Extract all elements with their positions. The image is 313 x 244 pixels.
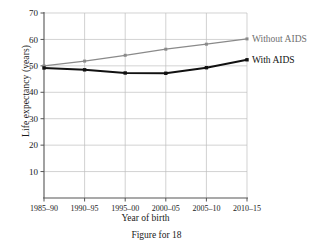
gridlines-vertical [85, 13, 247, 198]
series-marker [124, 54, 127, 57]
axis-lines [43, 12, 248, 198]
x-tick-label: 2010–15 [233, 204, 261, 213]
series-marker [164, 72, 167, 75]
y-axis-title: Life expectancy (years) [21, 21, 31, 161]
series-line [44, 39, 247, 66]
series-label-with-aids: With AIDS [252, 55, 295, 65]
chart-plot: 10203040506070 1985–901990–951995–002000… [0, 0, 313, 244]
series-marker [83, 60, 86, 63]
x-axis-tick-labels: 1985–901990–951995–002000–052005–102010–… [30, 204, 261, 213]
series-marker [245, 58, 248, 61]
series-lines [44, 39, 247, 73]
tick-marks [41, 13, 248, 202]
series-label-without-aids: Without AIDS [252, 34, 307, 44]
x-axis-title: Year of birth [44, 213, 247, 223]
series-marker [164, 48, 167, 51]
figure-caption: Figure for 18 [0, 230, 313, 240]
x-tick-label: 2000–05 [152, 204, 180, 213]
series-marker [124, 71, 127, 74]
series-legend-labels: Without AIDSWith AIDS [252, 34, 307, 65]
series-marker [42, 66, 45, 69]
gridlines-horizontal [44, 13, 247, 172]
x-tick-label: 1985–90 [30, 204, 58, 213]
x-tick-label: 1995–00 [111, 204, 139, 213]
x-tick-label: 2005–10 [192, 204, 220, 213]
x-tick-label: 1990–95 [71, 204, 99, 213]
y-tick-label: 10 [29, 167, 39, 177]
series-marker [83, 68, 86, 71]
series-marker [246, 37, 249, 40]
y-tick-label: 70 [29, 8, 39, 18]
series-marker [205, 43, 208, 46]
figure-container: 10203040506070 1985–901990–951995–002000… [0, 0, 313, 244]
series-marker [205, 66, 208, 69]
